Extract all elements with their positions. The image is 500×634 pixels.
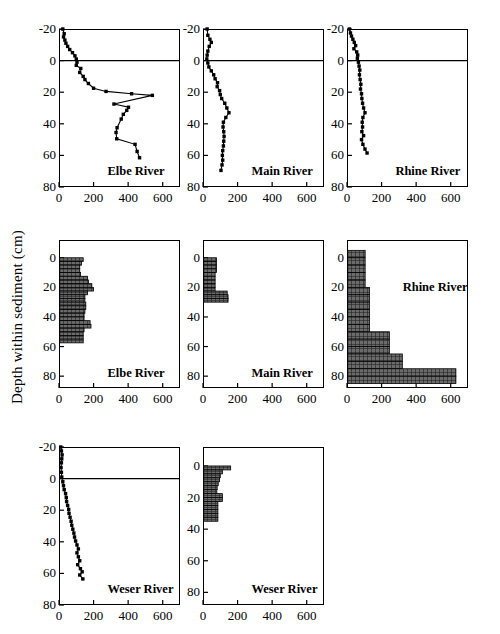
panel-elbe-profile: -200204060800200400600Elbe River <box>59 29 180 187</box>
x-tick-label: 400 <box>406 190 426 206</box>
data-point-marker <box>360 92 363 95</box>
y-tick-label: 60 <box>43 565 56 581</box>
data-point-marker <box>60 449 63 452</box>
y-tick-label: 0 <box>338 250 345 266</box>
x-tick-label: 0 <box>56 608 63 624</box>
panel-title: Main River <box>251 366 312 381</box>
panel-title: Weser River <box>251 582 317 597</box>
data-point-marker <box>75 543 78 546</box>
data-point-marker <box>114 131 117 134</box>
data-point-marker <box>60 457 63 460</box>
bar <box>204 273 215 277</box>
data-point-marker <box>222 135 225 138</box>
bar <box>204 513 218 517</box>
bar <box>204 280 215 284</box>
x-tick-label: 400 <box>406 391 426 407</box>
data-point-marker <box>225 106 228 109</box>
data-point-marker <box>354 44 357 47</box>
data-point-marker <box>358 73 361 76</box>
bar <box>348 258 365 265</box>
y-tick-label: 80 <box>331 368 344 384</box>
bar <box>60 265 80 269</box>
data-point-marker <box>348 27 351 30</box>
x-tick-label: 200 <box>372 190 392 206</box>
y-tick-label: 60 <box>331 147 344 163</box>
y-tick-label: 80 <box>43 597 56 613</box>
y-tick-label: -20 <box>327 21 344 37</box>
panel-weser-bar: 0204060800200400600Weser River <box>203 447 324 605</box>
bar <box>204 295 228 299</box>
bar <box>60 339 83 343</box>
data-point-marker <box>363 147 366 150</box>
data-point-marker <box>356 57 359 60</box>
x-tick-label: 200 <box>372 391 392 407</box>
data-point-marker <box>221 154 224 157</box>
y-tick-label: 20 <box>331 84 344 100</box>
panel-elbe-bar: 0204060800200400600Elbe River <box>59 240 180 388</box>
y-tick-label: 60 <box>187 553 200 569</box>
bar <box>204 265 217 269</box>
data-point-marker <box>362 134 365 137</box>
data-point-marker <box>223 102 226 105</box>
bar <box>204 509 218 513</box>
data-point-marker <box>60 475 63 478</box>
bar <box>60 261 82 265</box>
data-point-marker <box>63 38 66 41</box>
y-tick-label: 60 <box>187 147 200 163</box>
data-point-marker <box>221 149 224 152</box>
panel-rhine-bar: 0204060800200400600Rhine River <box>347 240 468 388</box>
data-point-marker <box>359 87 362 90</box>
bar <box>60 321 90 325</box>
data-point-marker <box>357 60 360 63</box>
y-tick-label: 80 <box>331 179 344 195</box>
y-tick-label: 80 <box>43 179 56 195</box>
data-point-marker <box>206 61 209 64</box>
bar <box>60 302 86 306</box>
data-point-marker <box>130 92 133 95</box>
bar <box>204 261 217 265</box>
bar <box>348 324 370 331</box>
bar <box>348 287 370 294</box>
data-point-marker <box>362 106 365 109</box>
y-tick-label: 0 <box>50 53 57 69</box>
data-point-marker <box>349 31 352 34</box>
x-tick-label: 600 <box>297 391 317 407</box>
bar <box>204 269 217 273</box>
data-point-marker <box>208 38 211 41</box>
data-point-marker <box>76 563 79 566</box>
bar <box>348 280 365 287</box>
data-point-marker <box>216 81 219 84</box>
bar <box>348 369 456 376</box>
data-point-marker <box>151 94 154 97</box>
x-tick-label: 600 <box>441 190 461 206</box>
data-point-marker <box>59 445 62 448</box>
data-point-marker <box>350 34 353 37</box>
bar <box>204 505 218 509</box>
bar <box>348 361 403 368</box>
data-point-marker <box>207 65 210 68</box>
x-tick-label: 0 <box>344 391 351 407</box>
x-tick-label: 0 <box>344 190 351 206</box>
y-axis-label: Depth within sediment (cm) <box>9 230 26 404</box>
data-point-marker <box>365 151 368 154</box>
data-point-marker <box>75 60 78 63</box>
y-tick-label: -20 <box>183 21 200 37</box>
x-tick-label: 200 <box>84 391 104 407</box>
data-point-marker <box>218 89 221 92</box>
data-point-marker <box>87 82 90 85</box>
data-point-marker <box>67 508 70 511</box>
y-tick-label: 80 <box>187 368 200 384</box>
bar <box>204 298 228 302</box>
y-tick-label: 40 <box>43 309 56 325</box>
y-tick-label: 0 <box>194 53 201 69</box>
bar <box>60 295 85 299</box>
data-point-marker <box>210 69 213 72</box>
data-point-marker <box>222 139 225 142</box>
data-point-marker <box>68 48 71 51</box>
y-tick-label: 40 <box>331 116 344 132</box>
data-point-marker <box>360 138 363 141</box>
bar <box>348 265 365 272</box>
bar <box>348 310 370 317</box>
data-point-marker <box>361 102 364 105</box>
data-point-marker <box>74 539 77 542</box>
